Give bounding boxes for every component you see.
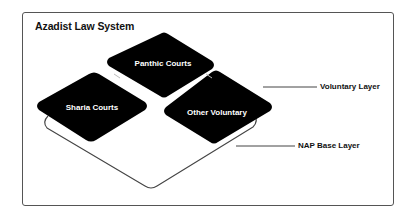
tile-panthic-courts-label: Panthic Courts xyxy=(135,59,192,68)
nap-base-layer-label: NAP Base Layer xyxy=(298,141,360,150)
diagram-canvas: Sharia Courts Panthic Courts Other Volun… xyxy=(0,0,414,219)
tile-sharia-courts-label: Sharia Courts xyxy=(66,103,119,112)
voluntary-layer-label: Voluntary Layer xyxy=(320,82,380,91)
tile-other-voluntary-label: Other Voluntary xyxy=(187,108,247,117)
